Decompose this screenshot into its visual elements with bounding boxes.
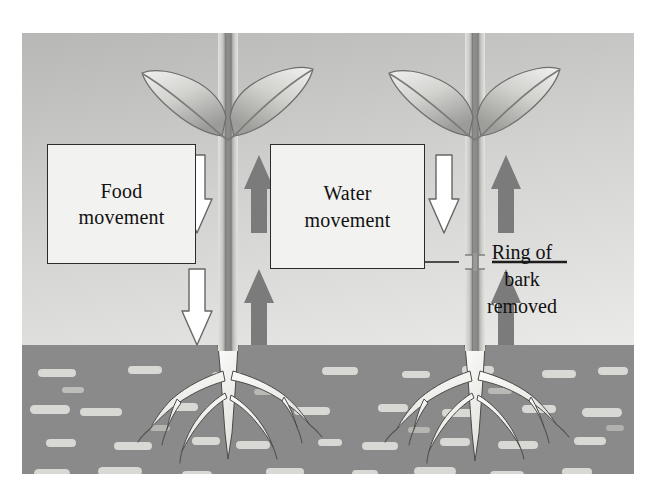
water-movement-text: Water movement bbox=[304, 180, 390, 233]
stem-right-upper bbox=[465, 33, 485, 255]
plant-transport-figure: Food movement Water movement Ring of bar… bbox=[22, 33, 634, 474]
water-movement-label: Water movement bbox=[270, 144, 425, 269]
food-movement-label: Food movement bbox=[47, 144, 196, 264]
ring-of-bark-removed-label: Ring of bark removed bbox=[427, 239, 617, 319]
stem-left bbox=[218, 33, 238, 351]
food-movement-text: Food movement bbox=[78, 178, 164, 231]
diagram-stage: Food movement Water movement Ring of bar… bbox=[0, 0, 657, 497]
